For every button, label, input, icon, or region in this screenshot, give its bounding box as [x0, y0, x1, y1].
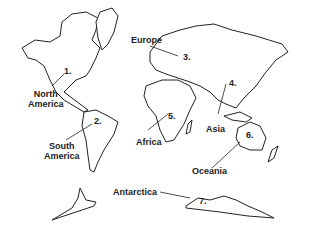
south-america-label: South America	[44, 141, 80, 161]
antarctica-label: Antarctica	[113, 187, 157, 197]
asia-number: 4.	[229, 78, 237, 88]
indonesia-shape	[224, 112, 252, 122]
asia-label: Asia	[206, 124, 225, 134]
africa-number: 5.	[168, 111, 176, 121]
oceania-number: 6.	[246, 130, 254, 140]
south-america-number: 2.	[94, 116, 102, 126]
north-america-number: 1.	[64, 66, 72, 76]
europe-number: 3.	[183, 52, 191, 62]
africa-label: Africa	[136, 137, 162, 147]
new-zealand-shape	[268, 146, 278, 162]
antarctica-number: 7.	[199, 196, 207, 206]
europe-label: Europe	[131, 35, 162, 45]
oceania-label: Oceania	[192, 166, 227, 176]
greenland-shape	[96, 8, 118, 50]
north-america-label: North America	[28, 89, 64, 109]
madagascar-shape	[186, 120, 192, 134]
antarctica-west-shape	[52, 188, 96, 220]
